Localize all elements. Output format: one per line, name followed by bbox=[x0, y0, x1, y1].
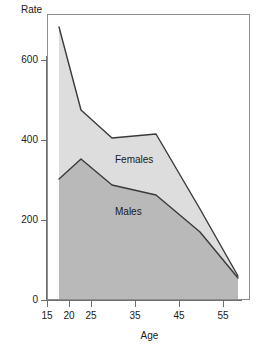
plot-area: Females Males bbox=[47, 14, 250, 300]
x-tick-label-55: 55 bbox=[208, 310, 238, 321]
y-tick-mark-600 bbox=[41, 60, 47, 61]
x-axis-title-wrap: Age bbox=[0, 330, 267, 342]
x-tick-label-25: 25 bbox=[76, 310, 106, 321]
x-tick-mark-25 bbox=[91, 301, 92, 307]
x-tick-label-45: 45 bbox=[164, 310, 194, 321]
y-tick-mark-400 bbox=[41, 140, 47, 141]
x-tick-45: 45 bbox=[164, 310, 194, 321]
x-tick-mark-55 bbox=[223, 301, 224, 307]
y-axis-title: Rate bbox=[21, 4, 42, 16]
y-tick-0: 0 bbox=[0, 295, 38, 305]
y-tick-600: 600 bbox=[0, 55, 38, 65]
chart-figure: Rate Females Males 600 400 200 0 bbox=[0, 0, 267, 348]
x-tick-35: 35 bbox=[120, 310, 150, 321]
x-tick-mark-35 bbox=[135, 301, 136, 307]
y-tick-400: 400 bbox=[0, 135, 38, 145]
series-label-males: Males bbox=[115, 206, 142, 217]
x-axis-line bbox=[46, 300, 242, 301]
y-axis-line bbox=[46, 56, 47, 301]
y-tick-label-600: 600 bbox=[21, 55, 38, 65]
x-tick-label-35: 35 bbox=[120, 310, 150, 321]
x-axis-title: Age bbox=[141, 330, 159, 341]
x-tick-mark-45 bbox=[179, 301, 180, 307]
x-tick-mark-15 bbox=[47, 301, 48, 307]
x-tick-55: 55 bbox=[208, 310, 238, 321]
x-tick-25: 25 bbox=[76, 310, 106, 321]
series-label-females: Females bbox=[115, 154, 153, 165]
x-tick-mark-20 bbox=[69, 301, 70, 307]
y-tick-mark-200 bbox=[41, 220, 47, 221]
y-tick-label-400: 400 bbox=[21, 135, 38, 145]
y-tick-label-200: 200 bbox=[21, 215, 38, 225]
y-tick-200: 200 bbox=[0, 215, 38, 225]
y-tick-label-0: 0 bbox=[32, 295, 38, 305]
